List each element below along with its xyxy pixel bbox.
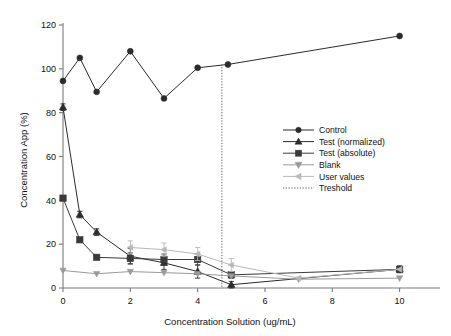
- legend-label: Treshold: [319, 183, 352, 193]
- legend-label: Test (normalized): [319, 137, 385, 147]
- legend-label: Test (absolute): [319, 148, 376, 158]
- y-tick-label: 20: [46, 239, 56, 249]
- chart-container: 0204060801001200246810 ControlTest (norm…: [0, 0, 451, 336]
- data-point-marker: [296, 127, 302, 133]
- x-tick-label: 8: [330, 296, 335, 306]
- x-tick-label: 6: [262, 296, 267, 306]
- data-point-marker: [195, 65, 201, 71]
- x-tick-label: 0: [60, 296, 65, 306]
- y-tick-label: 0: [51, 283, 56, 293]
- y-tick-label: 100: [41, 64, 56, 74]
- legend-label: Control: [319, 125, 347, 135]
- data-point-marker: [225, 62, 231, 68]
- plot-background: [0, 0, 451, 336]
- y-axis-title: Concentration App (%): [18, 112, 29, 208]
- y-tick-label: 120: [41, 20, 56, 30]
- data-point-marker: [296, 150, 302, 156]
- data-point-marker: [127, 48, 133, 54]
- data-point-marker: [60, 195, 66, 201]
- legend-label: User values: [319, 172, 364, 182]
- y-tick-label: 60: [46, 152, 56, 162]
- y-tick-label: 80: [46, 108, 56, 118]
- data-point-marker: [127, 255, 133, 261]
- concentration-line-chart: 0204060801001200246810 ControlTest (norm…: [0, 0, 451, 336]
- data-point-marker: [161, 256, 167, 262]
- data-point-marker: [77, 237, 83, 243]
- legend-label: Blank: [319, 160, 341, 170]
- data-point-marker: [94, 89, 100, 95]
- x-tick-label: 2: [128, 296, 133, 306]
- x-axis-title: Concentration Solution (ug/mL): [164, 316, 296, 327]
- data-point-marker: [60, 78, 66, 84]
- data-point-marker: [93, 254, 99, 260]
- y-tick-label: 40: [46, 196, 56, 206]
- x-tick-label: 10: [395, 296, 405, 306]
- data-point-marker: [397, 33, 403, 39]
- x-tick-label: 4: [195, 296, 200, 306]
- data-point-marker: [77, 55, 83, 61]
- data-point-marker: [161, 95, 167, 101]
